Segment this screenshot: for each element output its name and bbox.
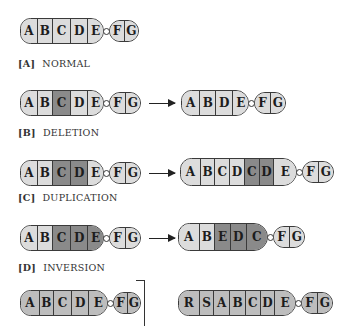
gene-segment-e: E (214, 224, 230, 250)
gene-segment-b: B (37, 91, 53, 115)
panel-tag: [D] (18, 262, 36, 273)
gene-segment-d: D (70, 19, 88, 43)
gene-segment-d: D (260, 291, 275, 315)
chromosome-normal: A B C D E F G (20, 18, 139, 44)
gene-segment-f: F (302, 293, 317, 313)
gene-segment-a: A (179, 224, 199, 250)
gene-segment-e: E (87, 161, 103, 185)
chromosome-before-translocation: A B C D E F G (20, 290, 141, 316)
panel-title: DUPLICATION (42, 192, 117, 203)
gene-segment-f: F (110, 163, 125, 183)
centromere (107, 300, 114, 307)
long-arm: A B C D E (20, 225, 104, 251)
gene-segment-e: E (87, 91, 103, 115)
gene-segment-r: R (179, 291, 199, 315)
chromosome-after-translocation: R S A B C D E F G (178, 290, 333, 316)
gene-segment-b: B (199, 91, 215, 115)
gene-segment-f: F (110, 93, 125, 113)
centromere (296, 169, 303, 176)
gene-segment-c: C (52, 226, 70, 250)
gene-segment-e: E (232, 91, 248, 115)
panel-label-inversion: [D]INVERSION (18, 262, 105, 273)
long-arm: A B C D E (20, 90, 104, 116)
chromosome-after-deletion: A B D E F G (181, 90, 286, 116)
long-arm: A B C D C D E (180, 158, 297, 186)
panel-label-deletion: [B]DELETION (18, 127, 99, 138)
gene-segment-c: C (52, 91, 70, 115)
gene-segment-f: F (303, 162, 318, 182)
gene-segment-b: B (39, 291, 54, 315)
gene-segment-f: F (114, 293, 127, 313)
centromere (103, 170, 110, 177)
gene-segment-b: B (199, 224, 215, 250)
arrow-icon (149, 173, 175, 174)
gene-segment-c-duplicate: C (244, 159, 259, 185)
gene-segment-d: D (71, 291, 89, 315)
short-arm: F G (273, 226, 305, 248)
centromere (267, 234, 274, 241)
arrow-icon (149, 103, 175, 104)
gene-segment-g: G (125, 93, 140, 113)
gene-segment-d: D (70, 161, 88, 185)
arrow-icon (149, 238, 175, 239)
gene-segment-d: D (215, 91, 232, 115)
short-arm: F G (109, 227, 141, 249)
gene-segment-f: F (255, 93, 270, 113)
gene-segment-a: A (182, 91, 199, 115)
gene-segment-e: E (87, 19, 103, 43)
gene-segment-b: B (229, 291, 245, 315)
gene-segment-f: F (110, 21, 124, 41)
gene-segment-g: G (289, 227, 304, 247)
panel-title: DELETION (43, 127, 99, 138)
gene-segment-g: G (270, 93, 285, 113)
bracket-line (136, 280, 145, 326)
chromosome-after-duplication: A B C D C D E F G (180, 159, 334, 185)
gene-segment-a: A (21, 226, 37, 250)
gene-segment-a: A (21, 19, 37, 43)
short-arm: F G (254, 92, 286, 114)
short-arm: F G (301, 292, 333, 314)
gene-segment-d: D (230, 224, 246, 250)
gene-segment-f: F (110, 228, 125, 248)
gene-segment-b: B (37, 19, 53, 43)
long-arm: A B C D E (20, 160, 104, 186)
gene-segment-a: A (21, 91, 37, 115)
gene-segment-c: C (245, 291, 260, 315)
gene-segment-d: D (70, 91, 88, 115)
gene-segment-f: F (274, 227, 289, 247)
long-arm: A B D E (181, 90, 249, 116)
panel-tag: [A] (18, 58, 35, 69)
gene-segment-d-duplicate: D (259, 159, 274, 185)
gene-segment-a: A (21, 161, 37, 185)
panel-title: INVERSION (43, 262, 105, 273)
centromere (103, 100, 110, 107)
gene-segment-g: G (317, 293, 332, 313)
long-arm: A B C D E (20, 18, 104, 44)
gene-segment-g: G (125, 163, 140, 183)
gene-segment-c: C (214, 159, 229, 185)
panel-label-duplication: [C]DUPLICATION (18, 192, 118, 203)
gene-segment-a: A (213, 291, 229, 315)
gene-segment-c: C (246, 224, 268, 250)
short-arm: F G (109, 92, 141, 114)
chromosome-before-inversion: A B C D E F G (20, 225, 141, 251)
chromosome-after-inversion: A B E D C F G (178, 224, 305, 250)
gene-segment-g: G (124, 21, 138, 41)
centromere (295, 300, 302, 307)
gene-segment-s: S (199, 291, 214, 315)
centromere (103, 235, 110, 242)
chromosome-before-duplication: A B C D E F G (20, 160, 141, 186)
gene-segment-e: E (274, 291, 295, 315)
gene-segment-e: E (87, 226, 103, 250)
short-arm: F G (109, 20, 139, 42)
gene-segment-a: A (181, 159, 200, 185)
gene-segment-b: B (37, 161, 53, 185)
gene-segment-g: G (318, 162, 333, 182)
panel-tag: [C] (18, 192, 35, 203)
gene-segment-d: D (229, 159, 244, 185)
long-arm: A B E D C (178, 223, 268, 251)
gene-segment-e: E (273, 159, 296, 185)
gene-segment-b: B (200, 159, 215, 185)
gene-segment-g: G (125, 228, 140, 248)
short-arm: F G (302, 161, 334, 183)
